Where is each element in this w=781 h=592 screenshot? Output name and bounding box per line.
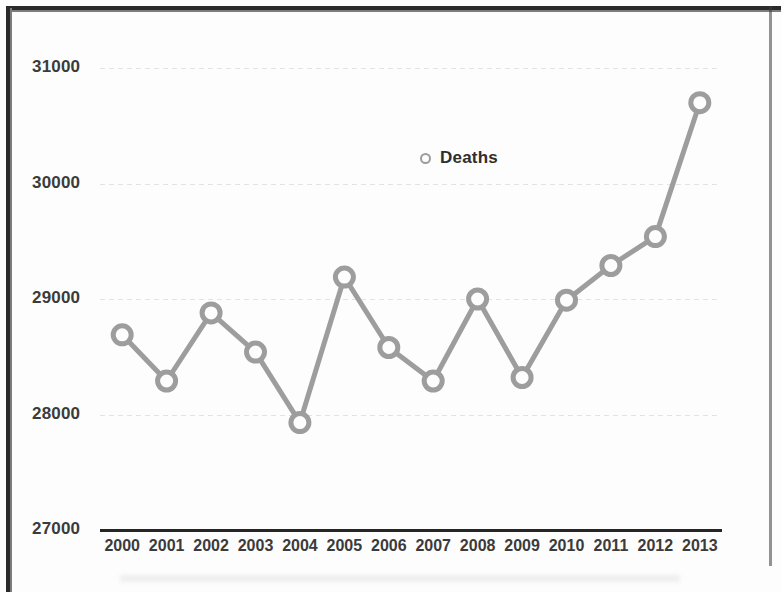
data-point-2008 [469,290,487,308]
data-point-2010 [558,291,576,309]
scanned-chart-page: 2700028000290003000031000 20002001200220… [0,0,781,592]
data-point-2009 [513,369,531,387]
data-point-2005 [335,268,353,286]
data-point-2001 [158,372,176,390]
data-point-2003 [247,343,265,361]
open-circle-marker-icon [420,153,431,164]
data-point-2007 [424,372,442,390]
line-chart-plot-area: 2700028000290003000031000 20002001200220… [0,0,781,592]
data-point-2006 [380,339,398,357]
legend-label-deaths: Deaths [440,148,498,168]
data-point-2000 [113,326,131,344]
data-point-2004 [291,414,309,432]
chart-legend: Deaths [420,148,498,168]
data-point-2012 [646,228,664,246]
data-point-2011 [602,257,620,275]
series-markers-deaths [113,94,709,432]
data-point-2013 [691,94,709,112]
data-point-2002 [202,304,220,322]
scan-artifact [120,575,680,582]
data-series-svg [0,0,781,592]
